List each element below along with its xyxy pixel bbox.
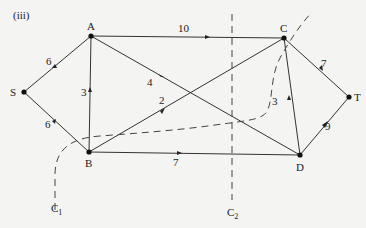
figure-label: (iii) bbox=[13, 9, 30, 22]
capacity-B-A: 3 bbox=[81, 86, 87, 98]
node-label-D: D bbox=[296, 161, 304, 173]
edge-D-C bbox=[284, 38, 300, 155]
capacity-B-D: 7 bbox=[173, 156, 179, 168]
node-label-B: B bbox=[85, 157, 92, 169]
capacity-S-B: 6 bbox=[45, 118, 51, 130]
capacity-D-T: 9 bbox=[325, 120, 331, 132]
node-label-T: T bbox=[354, 91, 361, 103]
node-label-C: C bbox=[280, 22, 287, 34]
arrow-B-A-icon bbox=[88, 87, 92, 92]
edge-C-T bbox=[284, 38, 349, 97]
capacity-D-C: 3 bbox=[272, 95, 278, 107]
edge-S-A bbox=[24, 36, 91, 92]
edge-S-B bbox=[24, 92, 89, 152]
arrow-D-C-icon bbox=[287, 95, 291, 100]
node-T bbox=[346, 94, 351, 99]
capacity-C-T: 7 bbox=[321, 57, 327, 69]
node-S bbox=[21, 89, 26, 94]
capacity-S-A: 6 bbox=[46, 55, 52, 67]
capacity-A-C: 10 bbox=[178, 22, 190, 34]
cut-label-C2: C2 bbox=[227, 206, 238, 221]
arrowheads bbox=[52, 35, 328, 155]
network-flow-diagram: (iii) S A B C D bbox=[0, 0, 366, 228]
edge-A-C bbox=[91, 36, 284, 38]
node-label-S: S bbox=[10, 86, 16, 98]
edge-B-A bbox=[89, 36, 91, 152]
edge-B-D bbox=[89, 152, 300, 155]
capacity-A-D: 4 bbox=[147, 76, 153, 88]
node-label-A: A bbox=[87, 20, 95, 32]
node-D bbox=[297, 152, 302, 157]
arrow-A-C-icon bbox=[205, 35, 210, 39]
cut-C1 bbox=[55, 12, 312, 210]
node-A bbox=[88, 33, 93, 38]
node-C bbox=[281, 35, 286, 40]
cut-label-C1: C1 bbox=[51, 202, 62, 217]
capacity-B-C: 2 bbox=[159, 94, 165, 106]
edges bbox=[24, 36, 349, 155]
arrow-B-D-icon bbox=[177, 151, 182, 155]
edge-A-D bbox=[91, 36, 300, 155]
arrow-A-D-icon bbox=[158, 74, 164, 77]
node-B bbox=[86, 149, 91, 154]
